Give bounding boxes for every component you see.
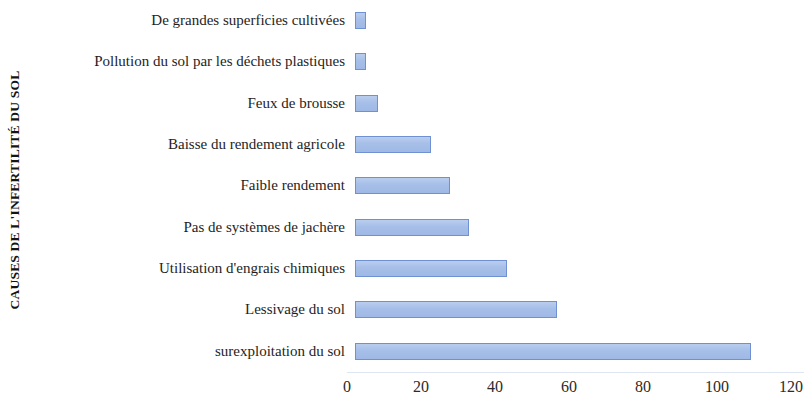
x-tick-label: 120 [779, 378, 803, 396]
bar [355, 177, 450, 194]
bar-track [355, 289, 804, 330]
category-label: Feux de brousse [30, 95, 355, 112]
bar-row: Lessivage du sol [30, 289, 804, 330]
bar-track [355, 207, 804, 248]
bar [355, 301, 557, 318]
plot-area: De grandes superficies cultivées Polluti… [30, 0, 804, 417]
category-label: De grandes superficies cultivées [30, 12, 355, 29]
x-tick-label: 20 [413, 378, 429, 396]
bar-rows: De grandes superficies cultivées Polluti… [30, 0, 804, 372]
x-axis-ticks: 0 20 40 60 80 100 120 [347, 378, 804, 408]
category-label: Pas de systèmes de jachère [30, 219, 355, 236]
category-label: Pollution du sol par les déchets plastiq… [30, 53, 355, 70]
category-label: Lessivage du sol [30, 301, 355, 318]
bar-row: De grandes superficies cultivées [30, 0, 804, 41]
x-tick-label: 0 [343, 378, 351, 396]
bar-track [355, 165, 804, 206]
category-label: surexploitation du sol [30, 343, 355, 360]
bar-track [355, 248, 804, 289]
bar-track [355, 41, 804, 82]
bar-row: surexploitation du sol [30, 331, 804, 372]
bar [355, 95, 378, 112]
x-tick-label: 40 [487, 378, 503, 396]
bar-chart: CAUSES DE L'INFERTILITÉ DU SOL De grande… [0, 0, 804, 417]
category-label: Baisse du rendement agricole [30, 136, 355, 153]
bar-row: Feux de brousse [30, 83, 804, 124]
bar [355, 260, 507, 277]
category-label: Utilisation d'engrais chimiques [30, 260, 355, 277]
x-tick-label: 60 [561, 378, 577, 396]
bar [355, 343, 751, 360]
bar-row: Utilisation d'engrais chimiques [30, 248, 804, 289]
x-tick-label: 100 [705, 378, 729, 396]
bar-row: Baisse du rendement agricole [30, 124, 804, 165]
y-axis-title: CAUSES DE L'INFERTILITÉ DU SOL [0, 0, 30, 380]
x-tick-label: 80 [635, 378, 651, 396]
bar-row: Pollution du sol par les déchets plastiq… [30, 41, 804, 82]
bar-track [355, 124, 804, 165]
y-axis-title-text: CAUSES DE L'INFERTILITÉ DU SOL [7, 71, 23, 310]
bar [355, 219, 469, 236]
bar-track [355, 0, 804, 41]
bar [355, 53, 366, 70]
bar-row: Pas de systèmes de jachère [30, 207, 804, 248]
bar [355, 12, 366, 29]
x-axis-line [347, 372, 804, 373]
bar-track [355, 83, 804, 124]
bar [355, 136, 431, 153]
category-label: Faible rendement [30, 177, 355, 194]
bar-row: Faible rendement [30, 165, 804, 206]
bar-track [355, 331, 804, 372]
